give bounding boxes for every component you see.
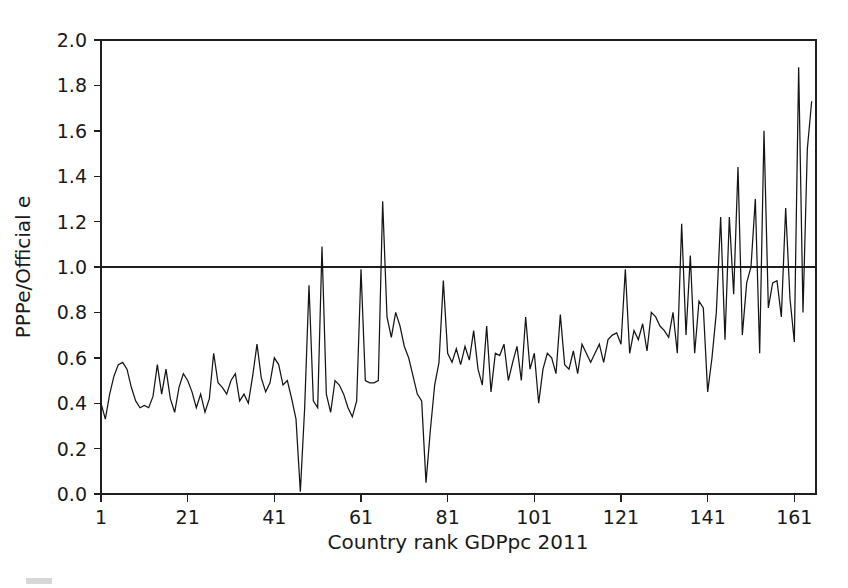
x-tick-label-141: 141 (690, 506, 726, 528)
y-tick-label-0.4: 0.4 (57, 392, 87, 414)
x-tick-label-101: 101 (516, 506, 552, 528)
y-tick-label-1.4: 1.4 (57, 165, 87, 187)
chart-background (0, 0, 848, 588)
y-tick-label-0.0: 0.0 (57, 483, 87, 505)
y-tick-label-2.0: 2.0 (57, 29, 87, 51)
y-axis-title: PPPe/Official e (11, 196, 35, 339)
y-tick-label-1.2: 1.2 (57, 211, 87, 233)
x-tick-label-121: 121 (603, 506, 639, 528)
scan-artifact (26, 578, 52, 584)
x-tick-label-21: 21 (176, 506, 200, 528)
chart-figure: 0.00.20.40.60.81.01.21.41.61.82.0 121416… (0, 0, 848, 588)
line-chart-canvas: 0.00.20.40.60.81.01.21.41.61.82.0 121416… (0, 0, 848, 588)
x-tick-label-61: 61 (349, 506, 373, 528)
x-tick-label-1: 1 (95, 506, 107, 528)
y-tick-label-1.8: 1.8 (57, 74, 87, 96)
y-tick-label-0.8: 0.8 (57, 301, 87, 323)
x-tick-label-81: 81 (436, 506, 460, 528)
y-tick-label-1.0: 1.0 (57, 256, 87, 278)
x-axis-title: Country rank GDPpc 2011 (328, 530, 589, 554)
x-tick-label-161: 161 (776, 506, 812, 528)
x-tick-label-41: 41 (262, 506, 286, 528)
y-tick-label-1.6: 1.6 (57, 120, 87, 142)
y-tick-label-0.2: 0.2 (57, 438, 87, 460)
y-tick-label-0.6: 0.6 (57, 347, 87, 369)
